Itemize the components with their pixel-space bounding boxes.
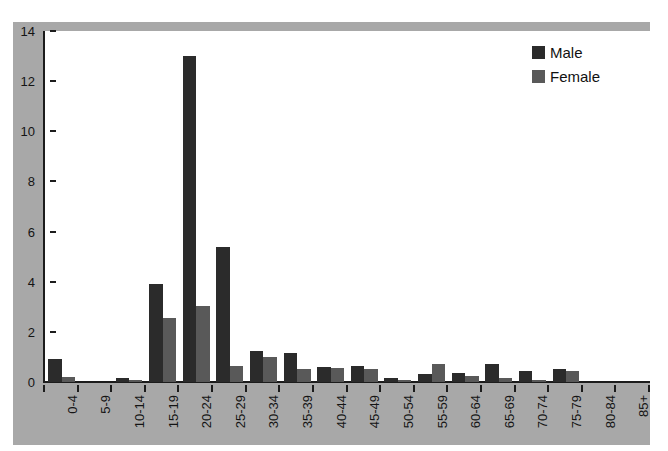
bar-male [317,367,330,382]
x-axis-tick-label: 20-24 [200,395,213,428]
chart-legend: MaleFemale [532,43,642,91]
x-axis-tick-mark [144,385,146,392]
y-axis-tick-label: 14 [21,25,35,38]
x-axis-tick-label: 30-34 [267,395,280,428]
bar-female [532,380,545,383]
legend-swatch-male-icon [532,46,545,59]
bar-male [250,351,263,382]
x-axis-tick-mark [211,385,213,392]
bar-female [331,368,344,382]
x-axis-tick-mark [43,385,45,392]
bar-female [129,380,142,383]
legend-item-male: Male [532,43,642,61]
bar-male [116,378,129,382]
bar-female [398,380,411,383]
x-axis-tick-mark [177,385,179,392]
y-axis-tick-label: 2 [28,325,35,338]
x-axis: 0-45-910-1415-1920-2425-2930-3435-3940-4… [43,385,650,451]
y-axis-tick-label: 10 [21,125,35,138]
x-axis-tick-label: 85+ [637,395,650,417]
bar-female [163,318,176,382]
bar-male [519,371,532,382]
x-axis-tick-label: 45-49 [368,395,381,428]
x-axis-tick-label: 50-54 [402,395,415,428]
bar-male [183,56,196,382]
bar-male [351,366,364,382]
bar-male [452,373,465,382]
bar-female [465,376,478,382]
x-axis-tick-label: 60-64 [469,395,482,428]
legend-label: Male [550,45,583,60]
x-axis-tick-mark [413,385,415,392]
x-axis-tick-mark [278,385,280,392]
bar-male [418,374,431,382]
x-axis-tick-label: 70-74 [536,395,549,428]
x-axis-tick-mark [581,385,583,392]
x-axis-tick-label: 0-4 [66,395,79,414]
x-axis-tick-mark [547,385,549,392]
x-axis-tick-mark [77,385,79,392]
x-axis-tick-label: 5-9 [99,395,112,414]
bar-male [48,359,61,382]
x-axis-tick-label: 80-84 [604,395,617,428]
legend-label: Female [550,69,600,84]
bar-female [499,378,512,382]
x-axis-tick-mark [614,385,616,392]
x-axis-tick-mark [379,385,381,392]
bar-male [149,284,162,382]
x-axis-tick-mark [514,385,516,392]
x-axis-tick-mark [346,385,348,392]
x-axis-tick-label: 40-44 [335,395,348,428]
bar-male [553,369,566,382]
x-axis-tick-mark [245,385,247,392]
bar-female [196,306,209,382]
x-axis-tick-label: 15-19 [167,395,180,428]
bar-female [432,364,445,382]
bar-chart-figure: 02468101214 0-45-910-1415-1920-2425-2930… [0,0,668,451]
x-axis-tick-mark [648,385,650,392]
x-axis-tick-mark [312,385,314,392]
x-axis-tick-label: 10-14 [133,395,146,428]
bar-female [263,357,276,382]
bar-female [297,369,310,382]
y-axis: 02468101214 [13,22,43,445]
y-axis-tick-label: 12 [21,75,35,88]
bar-female [364,369,377,382]
y-axis-tick-label: 0 [28,376,35,389]
bar-female [230,366,243,382]
y-axis-tick-label: 4 [28,275,35,288]
bar-male [216,247,229,382]
y-axis-tick-label: 6 [28,225,35,238]
bar-male [485,364,498,382]
legend-swatch-female-icon [532,70,545,83]
bar-female [566,371,579,382]
bar-female [62,377,75,382]
y-axis-tick-label: 8 [28,175,35,188]
x-axis-tick-label: 65-69 [503,395,516,428]
x-axis-tick-label: 75-79 [570,395,583,428]
x-axis-tick-label: 25-29 [234,395,247,428]
x-axis-tick-label: 35-39 [301,395,314,428]
x-axis-tick-mark [480,385,482,392]
x-axis-tick-mark [446,385,448,392]
x-axis-tick-mark [110,385,112,392]
x-axis-tick-label: 55-59 [436,395,449,428]
bar-male [284,353,297,382]
legend-item-female: Female [532,67,642,85]
bar-male [384,378,397,382]
